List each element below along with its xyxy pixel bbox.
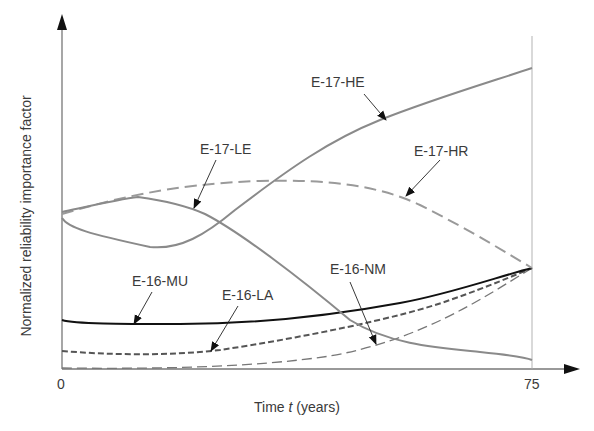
arrow-he-icon — [364, 94, 386, 120]
x-axis-title-suffix: (years) — [292, 399, 339, 415]
x-tick-0: 0 — [57, 376, 65, 392]
label-e17-hr: E-17-HR — [414, 143, 468, 159]
x-axis — [62, 364, 580, 374]
annotation-labels: E-17-HE E-17-LE E-17-HR E-16-MU E-16-LA … — [132, 74, 468, 303]
arrow-nm-icon — [350, 282, 376, 344]
series-lines — [62, 68, 532, 368]
label-e17-le: E-17-LE — [200, 141, 251, 157]
y-axis-title: Normalized reliability importance factor — [18, 95, 34, 337]
arrow-la-icon — [211, 306, 238, 351]
x-axis-title: Time t (years) — [254, 399, 340, 415]
label-e16-mu: E-16-MU — [132, 273, 188, 289]
x-axis-arrow-icon — [564, 364, 580, 374]
y-axis-arrow-icon — [57, 14, 67, 30]
series-e17-hr — [62, 181, 532, 268]
arrow-mu-icon — [134, 292, 152, 324]
label-e16-nm: E-16-NM — [330, 261, 386, 277]
annotation-arrows — [134, 94, 440, 351]
y-axis — [57, 14, 67, 369]
label-e17-he: E-17-HE — [311, 74, 365, 90]
x-tick-75: 75 — [524, 376, 540, 392]
reliability-chart: E-17-HE E-17-LE E-17-HR E-16-MU E-16-LA … — [0, 0, 594, 431]
x-axis-title-prefix: Time — [254, 399, 288, 415]
label-e16-la: E-16-LA — [222, 287, 274, 303]
arrow-hr-icon — [406, 160, 440, 196]
